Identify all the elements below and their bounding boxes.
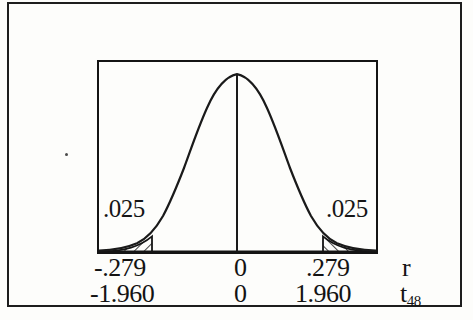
r-variable-label: r (402, 255, 410, 281)
t-negative-critical-value: -1.960 (90, 281, 154, 307)
axis-scale-table: -.279 0 .279 r -1.960 0 1.960 t48 (90, 255, 458, 307)
t-positive-critical-value: 1.960 (295, 281, 351, 307)
t-variable-symbol: t (400, 279, 407, 308)
r-negative-critical-value: -.279 (94, 255, 146, 281)
figure-page: .025 .025 -.279 0 .279 r -1.960 0 1.960 … (0, 0, 473, 320)
t-degrees-of-freedom-subscript: 48 (407, 293, 421, 309)
distribution-chart (97, 60, 378, 254)
alpha-label-right: .025 (326, 196, 368, 221)
t-variable-label: t48 (400, 281, 421, 314)
axis-row-r: -.279 0 .279 r (90, 255, 458, 281)
axis-row-t: -1.960 0 1.960 t48 (90, 281, 458, 307)
scan-speck (65, 153, 68, 156)
alpha-label-left: .025 (103, 196, 145, 221)
t-zero-value: 0 (234, 281, 247, 307)
r-positive-critical-value: .279 (306, 255, 350, 281)
r-zero-value: 0 (234, 255, 247, 281)
